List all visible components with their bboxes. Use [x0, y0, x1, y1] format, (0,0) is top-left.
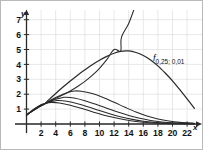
x-tick-label: 20: [168, 128, 178, 138]
x-tick-label: 6: [68, 128, 73, 138]
x-tick-label: 22: [182, 128, 192, 138]
function-plot-figure: 2468101214161820221234567 y x f0,25; 0,0…: [0, 0, 203, 150]
x-tick-label: 16: [139, 128, 149, 138]
y-tick-label: 1: [16, 104, 21, 114]
x-tick-label: 14: [124, 128, 134, 138]
x-tick-label: 12: [109, 128, 119, 138]
y-axis-label: y: [21, 10, 25, 18]
x-tick-label: 18: [153, 128, 163, 138]
x-tick-label: 2: [39, 128, 44, 138]
y-tick-label: 3: [16, 74, 21, 84]
axis-tick-labels: 2468101214161820221234567: [16, 15, 192, 138]
y-tick-label: 5: [16, 45, 21, 55]
y-tick-label: 4: [16, 60, 21, 70]
y-tick-label: 2: [16, 89, 21, 99]
curve-annotation-label: f0,25; 0,01: [153, 54, 184, 65]
x-tick-label: 8: [83, 128, 88, 138]
axis-ticks: [24, 20, 187, 127]
x-tick-label: 10: [95, 128, 105, 138]
curve-annotation-subscript: 0,25; 0,01: [156, 58, 185, 65]
curve-curve-peak-1_6: [27, 100, 195, 123]
curve-curve-peak-2_2: [27, 91, 195, 123]
curve-steeply-rising-curve: [27, 8, 135, 115]
chart-canvas: 2468101214161820221234567: [1, 1, 203, 150]
x-axis-label: x: [193, 124, 197, 132]
y-tick-label: 6: [16, 30, 21, 40]
curve-series-group: [27, 8, 195, 124]
x-tick-label: 4: [53, 128, 58, 138]
axes: [15, 10, 202, 134]
